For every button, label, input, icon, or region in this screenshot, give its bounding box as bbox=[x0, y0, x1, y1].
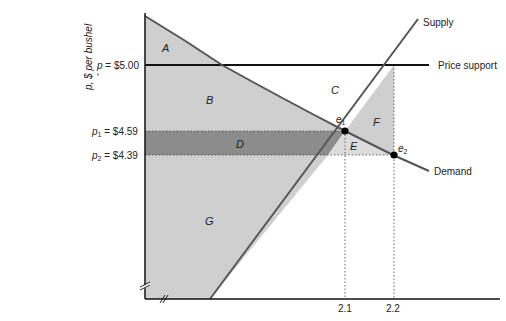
region-c-label: C bbox=[331, 84, 339, 96]
demand-label: Demand bbox=[434, 166, 472, 177]
y-tick-p1: p1 = $4.59 bbox=[91, 126, 138, 138]
region-a-label: A bbox=[161, 42, 169, 54]
region-b-label: B bbox=[206, 94, 213, 106]
price-support-chart: p, $ per bushel p = $5.00 p1 = $4.59 p2 … bbox=[0, 0, 506, 321]
e2-label: e2 bbox=[398, 143, 408, 155]
e2-point bbox=[390, 151, 397, 158]
region-g-label: G bbox=[205, 215, 214, 227]
e1-label: e1 bbox=[336, 114, 346, 126]
x-tick-2-1: 2.1 bbox=[338, 303, 352, 314]
region-d-label: D bbox=[236, 138, 244, 150]
region-e-label: E bbox=[350, 140, 358, 152]
x-tick-2-2: 2.2 bbox=[386, 303, 400, 314]
region-d bbox=[145, 131, 345, 155]
y-axis-label: p, $ per bushel bbox=[83, 23, 94, 91]
price-support-label: Price support bbox=[438, 60, 497, 71]
y-tick-p2: p2 = $4.39 bbox=[91, 150, 138, 162]
region-b bbox=[145, 65, 345, 131]
e1-point bbox=[341, 127, 348, 134]
y-tick-price-support: p = $5.00 bbox=[96, 60, 139, 71]
supply-label: Supply bbox=[423, 17, 454, 28]
